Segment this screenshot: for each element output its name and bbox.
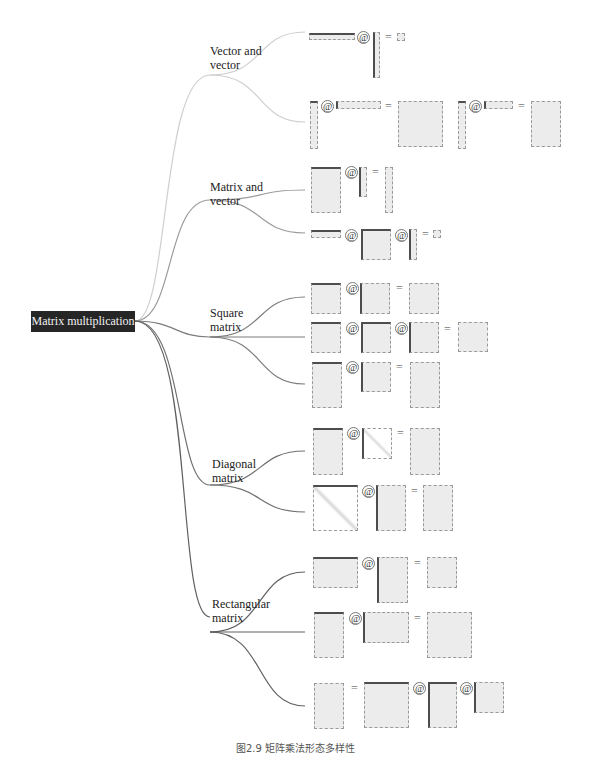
- matmul-operator: @: [362, 557, 375, 570]
- matmul-operator: @: [395, 229, 408, 242]
- matmul-operator: @: [413, 682, 426, 695]
- matmul-operator: @: [469, 100, 482, 113]
- equals-operator: =: [351, 682, 358, 694]
- equals-operator: =: [372, 166, 379, 178]
- outer-product-result: [398, 101, 443, 147]
- matrix-a: [311, 283, 341, 314]
- equals-operator: =: [518, 100, 525, 112]
- matrix-result: [427, 557, 457, 588]
- matmul-operator: @: [357, 31, 370, 44]
- column-vector-result: [385, 167, 393, 213]
- matmul-operator: @: [321, 100, 334, 113]
- matrix-a: [312, 362, 342, 408]
- matrix-b: [361, 362, 391, 392]
- matrix-b: [376, 485, 406, 531]
- column-vector: [359, 167, 367, 197]
- link-root-rectangular: [135, 321, 210, 617]
- matrix-a: [364, 682, 409, 728]
- matmul-operator: @: [346, 361, 359, 374]
- matmul-operator: @: [362, 485, 375, 498]
- matrix-c: [474, 682, 504, 713]
- link-root-vector-vector: [135, 75, 210, 321]
- matrix-a: [314, 612, 344, 658]
- scalar-result: [397, 33, 405, 41]
- equals-operator: =: [414, 612, 421, 624]
- matrix-b: [363, 612, 409, 643]
- matrix-a: [313, 428, 343, 475]
- matmul-operator: @: [347, 427, 360, 440]
- matmul-operator: @: [345, 229, 358, 242]
- matrix-result: [410, 428, 440, 475]
- matrix-a: [311, 322, 341, 353]
- matmul-operator: @: [395, 322, 408, 335]
- column-vector: [373, 32, 380, 78]
- equals-operator: =: [414, 557, 421, 569]
- branch-label-matrix-vector: Matrix and vector: [210, 180, 263, 208]
- matrix-result: [458, 322, 488, 352]
- row-vector: [311, 230, 341, 238]
- matrix-result: [409, 283, 439, 314]
- matrix-a: [313, 557, 358, 588]
- outer-product-result: [531, 101, 561, 147]
- equals-operator: =: [444, 323, 451, 335]
- link-root-diagonal: [135, 321, 210, 485]
- matrix-b: [428, 682, 457, 728]
- branch-label-square-matrix: Square matrix: [210, 306, 243, 334]
- matrix: [311, 167, 341, 213]
- equals-operator: =: [396, 361, 403, 373]
- square-matrix: [361, 229, 391, 260]
- link-root-matrix-vector: [135, 200, 210, 321]
- matrix-c: [409, 322, 439, 353]
- matmul-operator: @: [346, 282, 359, 295]
- matmul-operator: @: [460, 682, 473, 695]
- figure-caption: 图2.9 矩阵乘法形态多样性: [0, 740, 591, 755]
- column-vector: [458, 101, 466, 149]
- matmul-operator: @: [345, 166, 358, 179]
- row-vector: [309, 33, 355, 40]
- matrix-b: [377, 557, 408, 603]
- equals-operator: =: [385, 31, 392, 43]
- scalar-result: [433, 230, 441, 238]
- diagonal-matrix: [362, 428, 392, 459]
- row-vector: [484, 101, 513, 109]
- equals-operator: =: [411, 485, 418, 497]
- branch-label-vector-vector: Vector and vector: [210, 44, 262, 72]
- equals-operator: =: [422, 228, 429, 240]
- equals-operator: =: [397, 427, 404, 439]
- matmul-operator: @: [346, 322, 359, 335]
- matrix-result: [423, 485, 453, 531]
- matrix-result: [314, 683, 344, 729]
- matrix-result: [410, 362, 440, 408]
- diagonal-matrix: [313, 485, 358, 531]
- link-root-square: [135, 321, 210, 337]
- matmul-operator: @: [349, 612, 362, 625]
- row-vector: [336, 101, 381, 109]
- matrix-result: [427, 612, 472, 658]
- matrix-b: [360, 283, 390, 314]
- column-vector: [409, 229, 417, 260]
- root-node: Matrix multiplication: [31, 311, 135, 332]
- matrix-b: [361, 322, 391, 353]
- column-vector: [310, 101, 318, 149]
- branch-label-rectangular-matrix: Rectangular matrix: [212, 597, 270, 625]
- matrix-multiplication-mindmap: Matrix multiplication Vector and vector …: [0, 0, 591, 772]
- branch-label-diagonal-matrix: Diagonal matrix: [212, 457, 256, 485]
- equals-operator: =: [385, 100, 392, 112]
- equals-operator: =: [396, 282, 403, 294]
- mindmap-links: [0, 0, 591, 772]
